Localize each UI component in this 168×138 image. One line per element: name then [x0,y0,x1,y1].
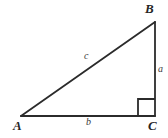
triangle-side-c-hypotenuse [21,22,155,116]
side-label-c: c [84,51,88,61]
right-angle-marker-icon [138,99,155,116]
vertex-label-a: A [13,119,22,132]
side-label-b: b [86,117,91,127]
vertex-label-b: B [145,2,154,15]
vertex-label-c: C [148,119,157,132]
triangle-figure [0,0,168,138]
right-triangle-diagram: B A C a b c [0,0,168,138]
side-label-a: a [158,64,163,74]
